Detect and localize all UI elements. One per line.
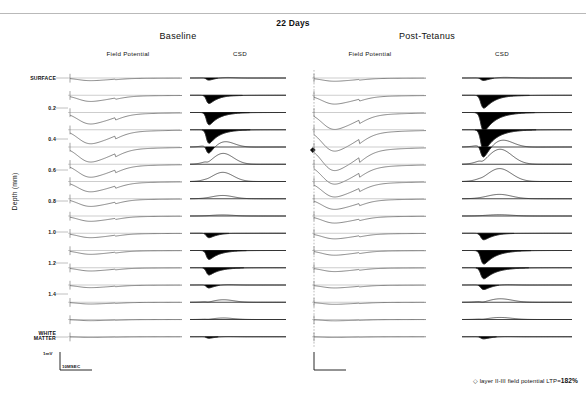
trace-plot-area [0, 0, 586, 394]
field-potential-trace [314, 113, 426, 129]
csd-trace [462, 268, 572, 279]
field-potential-trace [70, 302, 182, 304]
csd-sink-fill [477, 233, 514, 239]
csd-trace [190, 215, 286, 216]
trace-column-baseline-fp [68, 74, 182, 342]
field-potential-trace [314, 233, 426, 238]
scale-bar-post [314, 352, 346, 370]
scale-bar-right [314, 352, 346, 370]
csd-trace [462, 233, 572, 240]
csd-trace [190, 130, 286, 144]
field-potential-trace [70, 78, 182, 81]
field-potential-trace [70, 233, 182, 237]
csd-trace [190, 95, 286, 103]
field-potential-trace [70, 130, 182, 143]
depth-axis [56, 78, 68, 337]
csd-trace [462, 337, 572, 339]
csd-trace [462, 251, 572, 265]
csd-trace [190, 113, 286, 125]
csd-trace [190, 337, 286, 339]
scale-bar-left [60, 352, 92, 370]
csd-trace [190, 318, 286, 320]
field-potential-trace [70, 182, 182, 192]
csd-trace [462, 113, 572, 132]
field-potential-trace [70, 216, 182, 221]
field-potential-trace [70, 113, 182, 124]
field-potential-trace [70, 285, 182, 288]
csd-trace [462, 95, 572, 108]
trace-column-post-csd [462, 77, 572, 338]
csd-sink-fill [203, 95, 243, 103]
csd-trace [190, 172, 286, 181]
csd-sink-fill [476, 268, 529, 279]
field-potential-trace [314, 78, 426, 81]
field-potential-trace [314, 199, 426, 209]
csd-trace [190, 77, 286, 80]
csd-sink-fill [202, 130, 250, 144]
csd-sink-fill [203, 268, 244, 275]
field-potential-trace [70, 251, 182, 255]
csd-sink-fill [203, 251, 247, 260]
csd-trace [190, 285, 286, 288]
field-potential-trace [314, 148, 426, 171]
figure-canvas: 22 Days Baseline Post-Tetanus Field Pote… [0, 0, 586, 394]
field-potential-trace [314, 182, 426, 197]
field-potential-trace [70, 165, 182, 177]
field-potential-trace [70, 199, 182, 206]
field-potential-trace [314, 96, 426, 105]
field-potential-trace [314, 268, 426, 272]
scale-bar-baseline [60, 352, 92, 370]
csd-trace [190, 153, 286, 164]
csd-trace [462, 194, 572, 198]
csd-trace [462, 149, 572, 164]
csd-trace [190, 268, 286, 275]
csd-trace [462, 299, 572, 302]
csd-sink-fill [475, 113, 534, 132]
field-potential-trace [70, 95, 182, 101]
field-potential-trace [314, 216, 426, 223]
field-potential-trace [314, 251, 426, 256]
field-potential-trace [70, 148, 182, 162]
csd-sink-fill [476, 251, 531, 265]
field-potential-trace [314, 285, 426, 288]
field-potential-trace [314, 131, 426, 152]
csd-trace [190, 251, 286, 260]
field-potential-trace [314, 302, 426, 304]
field-potential-trace [70, 268, 182, 271]
csd-trace [462, 215, 572, 216]
csd-trace [462, 169, 572, 182]
trace-column-baseline-csd [190, 77, 286, 338]
csd-sink-fill [202, 113, 249, 125]
csd-trace [190, 233, 286, 237]
trace-column-post-fp [312, 70, 426, 347]
csd-trace [190, 195, 286, 198]
csd-trace [462, 140, 572, 157]
